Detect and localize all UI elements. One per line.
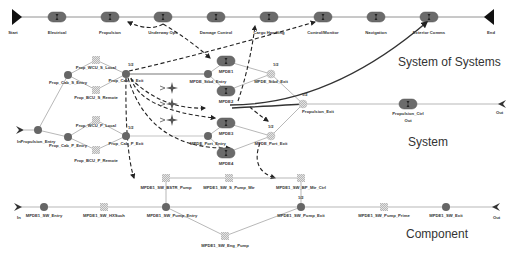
star-marker-icon (160, 98, 178, 110)
stage-control-monitor[interactable] (314, 12, 332, 22)
network-diagram: Start End Electrical Propulsion Underway… (0, 0, 514, 256)
label: Prop_BCU_P_Remote (74, 158, 118, 163)
stage-underway-ops[interactable] (154, 12, 172, 22)
layer-title-system: System (408, 135, 448, 149)
stage-label: Exterior Comms (413, 30, 446, 35)
system-in-port[interactable] (16, 126, 24, 134)
stage-navigation[interactable] (367, 12, 385, 22)
node-sw-pump-entry[interactable] (162, 203, 170, 211)
fraction: 1/2 (268, 124, 274, 129)
node-sw-pump-exit[interactable] (297, 203, 305, 211)
start-label: Start (8, 30, 18, 35)
fraction: 1/2 (128, 125, 134, 130)
node-sw-bstr-pump[interactable] (162, 174, 170, 182)
sos-layer: Start End Electrical Propulsion Underway… (8, 9, 500, 69)
node-prop-cab-s-entry[interactable] (64, 71, 72, 79)
fraction: 1/2 (273, 62, 279, 67)
label: MPDE1_SW_HXSuch (83, 213, 125, 218)
star-marker-icon (160, 114, 178, 126)
node-mpde3[interactable] (217, 118, 235, 128)
node-sw-s-pump-mtr[interactable] (225, 174, 233, 182)
system-out-label: Out (496, 110, 504, 115)
label: MPDE1_SW_S_Pump_Mtr (203, 185, 255, 190)
node-propulsion-exit[interactable] (299, 100, 307, 108)
node-propulsion-entry[interactable] (34, 126, 42, 134)
label: MPDE1_SW_Pump_Entry (147, 213, 198, 218)
node-mpde1[interactable] (217, 56, 235, 66)
fraction: 1/2 (298, 195, 304, 200)
stage-label: Electrical (48, 30, 67, 35)
end-label: End (487, 30, 495, 35)
node-sw-pump-prime[interactable] (380, 203, 388, 211)
stage-label: Navigation (365, 30, 387, 35)
stage-label: Underway Ops (148, 30, 178, 35)
node-mpde2[interactable] (217, 86, 235, 96)
end-node[interactable] (484, 9, 494, 25)
star-marker-icon (160, 82, 178, 94)
label: Prop_Cab_P_Exit (109, 141, 145, 146)
node-prop-cab-p-exit[interactable] (122, 132, 130, 140)
label: MPDE1_SW_BSTR_Pump (140, 185, 192, 190)
label: Out (404, 118, 412, 123)
node-prop-bcu-s-remote[interactable] (92, 86, 100, 94)
label: MPDE1_SW_Entry (26, 213, 63, 218)
start-node[interactable] (12, 9, 22, 25)
label: MPDE_Port_Entry (190, 141, 227, 146)
node-sw-exit[interactable] (442, 203, 450, 211)
label: Prop_Cab_S_Exit (109, 78, 145, 83)
stage-label: Control/Monitor (307, 30, 339, 35)
node-prop-bcu-p-remote[interactable] (92, 146, 100, 154)
label: MPDE1_SW_Exit (429, 213, 463, 218)
node-prop-cab-p-entry[interactable] (64, 133, 72, 141)
layer-title-component: Component (406, 227, 469, 241)
node-mpde-port-entry[interactable] (204, 132, 212, 140)
stage-label: Propulsion (99, 30, 121, 35)
component-out-port[interactable] (492, 203, 500, 211)
layer-title-sos: System of Systems (398, 55, 501, 69)
system-layer: In Out Propulsion_Entry Prop_Cab_S_Entry… (16, 22, 506, 178)
node-sw-bp-mtr-ctrl[interactable] (297, 174, 305, 182)
stage-propulsion[interactable] (101, 12, 119, 22)
component-in-port[interactable] (14, 203, 22, 211)
label: Propulsion_Exit (302, 109, 334, 114)
node-mpde-stbd-entry[interactable] (204, 70, 212, 78)
label: Prop_WCU_P_Local (76, 123, 116, 128)
node-prop-cab-s-exit[interactable] (122, 70, 130, 78)
system-out-port[interactable] (498, 100, 506, 108)
label: MPDE1_SW_Eng_Pump (201, 243, 249, 248)
label: MPDE1 (219, 69, 234, 74)
label: MPDE2 (219, 99, 234, 104)
stage-cargo-handling[interactable] (260, 12, 278, 22)
component-layer: In Out MPDE1_SW_Entry MPDE1_SW_HXSuch MP… (14, 174, 501, 248)
node-mpde-port-exit[interactable] (267, 132, 275, 140)
stage-electrical[interactable] (48, 12, 66, 22)
node-mpde-stbd-exit[interactable] (267, 70, 275, 78)
component-out-label: Out (493, 215, 501, 220)
label: Prop_Cab_S_Entry (49, 80, 88, 85)
node-sw-eng-pump[interactable] (221, 232, 229, 240)
stage-label: Damage Control (200, 30, 232, 35)
fraction: 1/2 (302, 92, 308, 97)
node-propulsion-ctrl[interactable] (399, 99, 417, 109)
label: Propulsion_Ctrl (392, 111, 423, 116)
stage-label: Cargo Handling (253, 30, 285, 35)
label: MPDE1_SW_BP_Mtr_Ctrl (276, 185, 326, 190)
label: MPDE1_SW_Pump_Exit (277, 213, 325, 218)
label: MPDE_Stbd_Exit (254, 79, 288, 84)
label: Prop_BCU_S_Remote (74, 95, 118, 100)
stage-exterior-comms[interactable] (420, 12, 438, 22)
stage-damage-control[interactable] (207, 12, 225, 22)
node-sw-entry[interactable] (40, 203, 48, 211)
fraction: 1/2 (128, 62, 134, 67)
node-sw-hxsuch[interactable] (100, 203, 108, 211)
label: MPDE_Port_Exit (255, 141, 288, 146)
label: MPDE3 (219, 131, 234, 136)
label: Prop_WCU_S_Local (76, 65, 116, 70)
label: MPDE4 (219, 161, 234, 166)
label: Prop_Cab_P_Entry (49, 143, 88, 148)
component-in-label: In (17, 215, 21, 220)
label: MPDE_Stbd_Entry (190, 79, 227, 84)
node-mpde4[interactable] (217, 148, 235, 158)
node-prop-wcu-s-local[interactable] (92, 56, 100, 64)
label: MPDE1_SW_Pump_Prime (358, 213, 410, 218)
